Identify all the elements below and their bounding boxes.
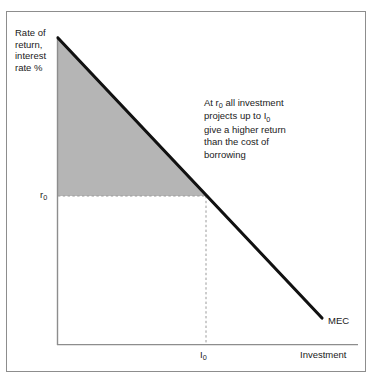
annotation-line-2-sub: 0 [266,115,270,124]
figure-container: Rate ofreturn,interestrate % At r0 all i… [0,0,380,384]
annotation-line-4: than the cost of [204,136,269,147]
y-axis-label-line-2: return, [15,39,42,50]
annotation-text: At r0 all investmentprojects up to I0giv… [204,97,286,161]
annotation-line-1-pre: At r [204,97,219,108]
mec-curve-label: MEC [328,315,349,327]
r0-axis-label: r0 [40,189,47,202]
r0-subscript: 0 [43,193,47,202]
annotation-line-1-sub: 0 [219,101,223,110]
annotation-line-1-post: all investment [223,97,284,108]
annotation-line-5: borrowing [204,149,246,160]
y-axis-label-line-4: rate % [15,62,42,73]
y-axis-label: Rate ofreturn,interestrate % [15,27,46,73]
plot-canvas [0,0,380,384]
y-axis-label-line-1: Rate of [15,27,46,38]
y-axis-label-line-3: interest [15,50,46,61]
annotation-line-3: give a higher return [204,124,286,135]
x-axis-label: Investment [300,349,346,361]
i0-subscript: 0 [203,353,207,362]
annotation-line-2-pre: projects up to I [204,110,266,121]
i0-axis-label: I0 [200,349,207,362]
